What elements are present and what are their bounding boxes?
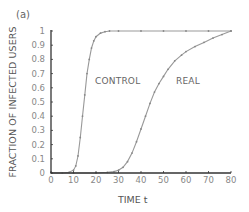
data-point: [221, 34, 223, 36]
data-point: [86, 73, 88, 75]
y-tick-label: 0.6: [31, 83, 45, 93]
x-tick-label: 30: [113, 175, 124, 185]
data-point: [194, 46, 196, 48]
data-point: [82, 115, 84, 117]
data-point: [230, 30, 232, 32]
x-tick-label: 60: [181, 175, 192, 185]
data-point: [208, 30, 210, 32]
data-point: [127, 161, 129, 163]
x-tick-label: 0: [48, 175, 53, 185]
data-point: [93, 40, 95, 42]
data-point: [167, 68, 169, 70]
data-point: [181, 54, 183, 56]
plot-area: 00.10.20.30.40.50.60.70.80.9101020304050…: [0, 0, 249, 212]
x-tick-label: 40: [136, 175, 147, 185]
y-tick-label: 0.8: [31, 54, 45, 64]
data-point: [113, 171, 115, 173]
data-point: [109, 30, 111, 32]
data-point: [154, 91, 156, 93]
data-point: [136, 141, 138, 143]
x-tick-label: 70: [203, 175, 214, 185]
x-tick-label: 50: [158, 175, 169, 185]
x-tick-label: 80: [226, 175, 237, 185]
data-point: [84, 94, 86, 96]
y-tick-label: 1: [40, 26, 45, 36]
data-point: [149, 103, 151, 105]
y-tick-label: 0.3: [31, 125, 45, 135]
data-point: [118, 169, 120, 171]
data-point: [88, 59, 90, 61]
data-point: [212, 37, 214, 39]
data-point: [163, 76, 165, 78]
y-tick-label: 0.7: [31, 69, 45, 79]
data-point: [203, 41, 205, 43]
data-point: [174, 60, 176, 62]
data-point: [140, 128, 142, 130]
data-point: [100, 32, 102, 34]
y-tick-label: 0.1: [31, 154, 45, 164]
data-point: [91, 47, 93, 49]
data-point: [75, 165, 77, 167]
y-tick-label: 0.9: [31, 40, 45, 50]
data-point: [185, 51, 187, 53]
data-point: [79, 137, 81, 139]
data-point: [131, 152, 133, 154]
x-tick-label: 10: [68, 175, 79, 185]
data-point: [163, 30, 165, 32]
y-tick-label: 0.5: [31, 97, 45, 107]
data-point: [104, 31, 106, 33]
y-tick-label: 0.2: [31, 140, 45, 150]
y-tick-label: 0: [40, 168, 45, 178]
data-point: [145, 115, 147, 117]
x-tick-label: 20: [91, 175, 102, 185]
data-point: [185, 30, 187, 32]
y-tick-label: 0.4: [31, 111, 45, 121]
data-point: [95, 36, 97, 38]
data-point: [122, 166, 124, 168]
series-line-control: [51, 31, 231, 173]
data-point: [158, 83, 160, 85]
data-point: [118, 30, 120, 32]
data-point: [73, 169, 75, 171]
data-point: [140, 30, 142, 32]
data-point: [77, 155, 79, 157]
